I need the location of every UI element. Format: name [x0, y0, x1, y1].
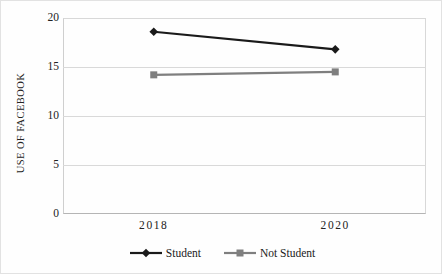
data-point-marker-square: [236, 250, 243, 257]
plot-area: [63, 18, 426, 214]
series-line: [154, 72, 336, 75]
gridline: [63, 165, 426, 166]
y-axis-tick-label: 20: [31, 12, 59, 24]
y-axis-tick-label: 10: [31, 110, 59, 122]
y-axis-tick-labels: 20151050: [31, 1, 59, 274]
data-point-marker-square: [332, 68, 339, 75]
y-axis-tick-label: 0: [31, 208, 59, 220]
legend-label: Student: [166, 247, 201, 259]
gridline: [63, 67, 426, 68]
legend-item[interactable]: Not Student: [223, 247, 315, 259]
gridline: [63, 116, 426, 117]
chart-figure: USE OF FACEBOOK 20151050 20182020 Studen…: [0, 0, 442, 274]
x-axis-tick-label: 2018: [139, 219, 168, 231]
chart-legend: StudentNot Student: [1, 247, 442, 259]
series-line: [154, 32, 336, 50]
x-axis-tick-label: 2020: [321, 219, 350, 231]
legend-label: Not Student: [260, 247, 315, 259]
legend-marker-diamond-icon: [129, 247, 163, 259]
y-axis-tick-label: 15: [31, 61, 59, 73]
data-point-marker-diamond: [149, 27, 158, 36]
data-point-marker-diamond: [141, 249, 150, 258]
legend-marker-square-icon: [223, 247, 257, 259]
data-point-marker-diamond: [331, 45, 340, 54]
legend-item[interactable]: Student: [129, 247, 201, 259]
data-point-marker-square: [150, 71, 157, 78]
x-axis-tick-labels: 20182020: [63, 219, 426, 239]
y-axis-tick-label: 5: [31, 159, 59, 171]
